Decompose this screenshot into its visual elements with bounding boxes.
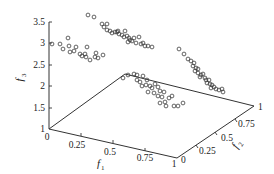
x-tick-label: 0.75 <box>137 153 154 163</box>
data-point <box>121 76 125 80</box>
x-axis-title: f 1 <box>97 157 105 172</box>
data-point <box>170 94 174 98</box>
y-tick-labels: 0 0.25 0.5 0.75 1 <box>181 102 263 165</box>
x-tick-label: 0.25 <box>69 140 86 150</box>
data-point <box>123 29 127 33</box>
scatter-3d-chart: 1 1.5 2 2.5 3 3.5 f 3 0 0.25 0.5 0.75 1 … <box>0 0 274 174</box>
data-point <box>74 45 78 49</box>
y-tick-label: 0.5 <box>221 133 233 143</box>
z-tick-label: 2.5 <box>33 60 45 70</box>
y-tick-label: 0 <box>181 155 186 165</box>
data-point <box>172 104 176 108</box>
data-point <box>163 100 167 104</box>
data-point <box>68 50 72 54</box>
data-point <box>164 104 168 108</box>
data-point <box>177 47 181 51</box>
series-cluster-left <box>50 36 105 62</box>
x-tick-labels: 0 0.25 0.5 0.75 1 <box>45 132 177 169</box>
back-edge-right <box>125 74 254 106</box>
data-point <box>86 13 90 17</box>
y-tick-label: 0.75 <box>238 119 255 129</box>
back-edge-left <box>49 74 125 129</box>
z-tick-labels: 1 1.5 2 2.5 3 3.5 <box>33 17 45 134</box>
data-point <box>182 52 186 56</box>
chart-canvas: 1 1.5 2 2.5 3 3.5 f 3 0 0.25 0.5 0.75 1 … <box>0 0 274 174</box>
data-point <box>101 53 105 57</box>
data-point <box>156 94 160 98</box>
data-point <box>141 74 145 78</box>
data-point <box>152 91 156 95</box>
data-point <box>137 35 141 39</box>
z-tick-label: 3 <box>40 38 45 48</box>
data-point <box>132 36 136 40</box>
data-point <box>144 83 148 87</box>
data-point <box>66 36 70 40</box>
scatter-points <box>50 13 225 108</box>
data-point <box>181 101 185 105</box>
data-point <box>92 15 96 19</box>
data-point <box>67 44 71 48</box>
y-tick-label: 1 <box>258 102 263 112</box>
data-point <box>94 51 98 55</box>
x-tick-label: 0 <box>45 132 50 142</box>
y-tick-label: 0.25 <box>199 146 216 156</box>
data-point <box>61 47 65 51</box>
data-point <box>58 42 62 46</box>
data-point <box>88 58 92 62</box>
data-point <box>134 41 138 45</box>
data-point <box>140 84 144 88</box>
data-point <box>156 85 160 89</box>
data-point <box>138 80 142 84</box>
data-point <box>102 25 106 29</box>
z-tick-label: 2 <box>40 81 45 91</box>
svg-text:1: 1 <box>101 164 105 172</box>
z-axis-title: f 3 <box>13 73 28 82</box>
data-point <box>72 49 76 53</box>
series-cluster-center-floor <box>121 72 185 108</box>
series-cluster-right-diagonal <box>177 47 225 94</box>
data-point <box>158 89 162 93</box>
data-point <box>158 101 162 105</box>
svg-text:3: 3 <box>20 73 28 77</box>
data-point <box>160 95 164 99</box>
data-point <box>146 90 150 94</box>
z-tick-label: 3.5 <box>33 17 45 27</box>
data-point <box>85 45 89 49</box>
z-tick-label: 1.5 <box>33 103 45 113</box>
x-tick-label: 0.5 <box>104 147 116 157</box>
x-tick-label: 1 <box>172 159 177 169</box>
data-point <box>105 22 109 26</box>
data-point <box>153 82 157 86</box>
data-point <box>150 45 154 49</box>
series-cluster-top-diagonal <box>86 13 154 49</box>
data-point <box>162 90 166 94</box>
data-point <box>176 104 180 108</box>
